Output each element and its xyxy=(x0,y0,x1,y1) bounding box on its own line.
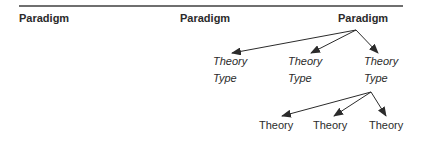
arrow-icon xyxy=(356,30,378,53)
arrow-icon xyxy=(282,92,371,116)
theory-type-2-line2: Type xyxy=(288,72,312,85)
theory-label-2: Theory xyxy=(313,119,347,132)
theory-type-3-line2: Type xyxy=(364,72,388,85)
theory-type-1-line1: Theory xyxy=(213,55,247,68)
arrow-icon xyxy=(232,30,356,53)
arrows xyxy=(0,0,423,141)
arrow-icon xyxy=(371,92,386,116)
paradigm-arrows xyxy=(232,30,378,53)
arrow-icon xyxy=(311,30,356,53)
theory-type-arrows xyxy=(282,92,386,116)
theory-type-2-line1: Theory xyxy=(288,55,322,68)
theory-type-3-line1: Theory xyxy=(364,55,398,68)
theory-label-3: Theory xyxy=(369,119,403,132)
theory-type-1-line2: Type xyxy=(213,72,237,85)
arrow-icon xyxy=(334,92,371,116)
theory-label-1: Theory xyxy=(259,119,293,132)
